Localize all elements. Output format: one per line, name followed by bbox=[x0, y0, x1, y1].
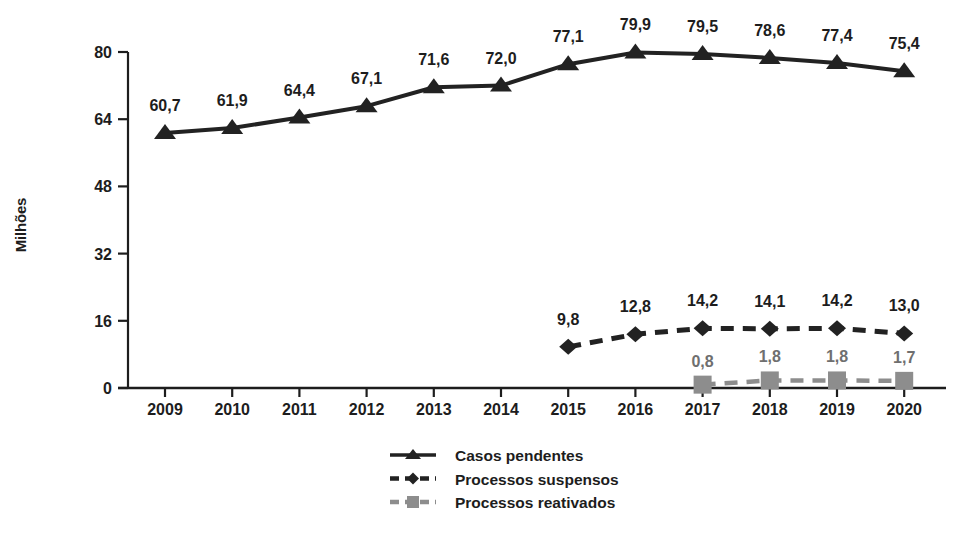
y-tick-label: 32 bbox=[94, 246, 112, 263]
data-point-marker bbox=[895, 372, 913, 390]
x-tick-label: 2009 bbox=[147, 401, 183, 418]
data-label: 14,2 bbox=[821, 292, 852, 309]
x-tick-label: 2017 bbox=[685, 401, 721, 418]
data-label: 72,0 bbox=[485, 50, 516, 67]
data-point-marker bbox=[761, 371, 779, 389]
legend-item-2[interactable]: Processos suspensos bbox=[390, 471, 619, 488]
data-point-marker bbox=[828, 320, 846, 336]
data-point-marker bbox=[694, 320, 712, 336]
data-point-marker bbox=[559, 339, 577, 355]
chart-legend: Casos pendentesProcessos suspensosProces… bbox=[390, 447, 619, 511]
data-label: 12,8 bbox=[620, 298, 651, 315]
data-label: 79,9 bbox=[620, 16, 651, 33]
x-tick-label: 2011 bbox=[282, 401, 317, 418]
y-tick-label: 16 bbox=[94, 313, 112, 330]
x-tick-label: 2019 bbox=[819, 401, 855, 418]
data-label: 61,9 bbox=[217, 92, 248, 109]
series-layer bbox=[154, 43, 915, 393]
data-label: 14,1 bbox=[754, 293, 785, 310]
legend-item-1[interactable]: Casos pendentes bbox=[390, 447, 583, 464]
legend-label: Casos pendentes bbox=[455, 447, 583, 464]
legend-label: Processos suspensos bbox=[455, 471, 619, 488]
data-label: 67,1 bbox=[351, 70, 382, 87]
legend-marker bbox=[407, 473, 419, 485]
series-line bbox=[165, 52, 904, 133]
data-label: 14,2 bbox=[687, 292, 718, 309]
data-label: 9,8 bbox=[557, 311, 579, 328]
legend-label: Processos reativados bbox=[455, 494, 615, 511]
x-tick-label: 2013 bbox=[416, 401, 452, 418]
x-tick-label: 2016 bbox=[618, 401, 654, 418]
x-tick-label: 2012 bbox=[349, 401, 385, 418]
legend-marker bbox=[407, 496, 419, 508]
data-label: 1,8 bbox=[826, 348, 848, 365]
data-point-marker bbox=[626, 326, 644, 342]
series-1 bbox=[154, 43, 915, 139]
y-tick-label: 64 bbox=[94, 111, 112, 128]
line-chart: 01632486480 2009201020112012201320142015… bbox=[0, 0, 958, 533]
data-label: 77,4 bbox=[821, 27, 852, 44]
y-tick-label: 48 bbox=[94, 178, 112, 195]
data-label: 1,7 bbox=[893, 349, 915, 366]
data-labels-layer: 60,761,964,467,171,672,077,179,979,578,6… bbox=[149, 16, 919, 369]
y-tick-label: 80 bbox=[94, 44, 112, 61]
data-label: 75,4 bbox=[889, 35, 920, 52]
data-point-marker bbox=[895, 325, 913, 341]
data-point-marker bbox=[828, 371, 846, 389]
data-label: 0,8 bbox=[691, 353, 713, 370]
y-tick-label: 0 bbox=[103, 380, 112, 397]
chart-container: Milhões 01632486480 20092010201120122013… bbox=[0, 0, 958, 533]
x-tick-label: 2015 bbox=[550, 401, 586, 418]
data-label: 1,8 bbox=[759, 348, 781, 365]
data-label: 78,6 bbox=[754, 22, 785, 39]
data-label: 79,5 bbox=[687, 18, 718, 35]
x-axis-ticks: 2009201020112012201320142015201620172018… bbox=[147, 388, 922, 418]
x-tick-label: 2010 bbox=[214, 401, 250, 418]
series-line bbox=[703, 380, 905, 384]
x-tick-label: 2014 bbox=[483, 401, 519, 418]
data-label: 64,4 bbox=[284, 82, 315, 99]
data-point-marker bbox=[694, 376, 712, 394]
data-label: 13,0 bbox=[889, 297, 920, 314]
x-tick-label: 2020 bbox=[886, 401, 922, 418]
series-2 bbox=[559, 320, 913, 354]
series-3 bbox=[694, 371, 914, 393]
data-label: 71,6 bbox=[418, 51, 449, 68]
series-line bbox=[568, 328, 904, 346]
data-point-marker bbox=[761, 321, 779, 337]
data-label: 60,7 bbox=[149, 97, 180, 114]
x-tick-label: 2018 bbox=[752, 401, 788, 418]
legend-item-3[interactable]: Processos reativados bbox=[390, 494, 615, 511]
data-label: 77,1 bbox=[553, 28, 584, 45]
y-axis-ticks: 01632486480 bbox=[94, 44, 128, 397]
